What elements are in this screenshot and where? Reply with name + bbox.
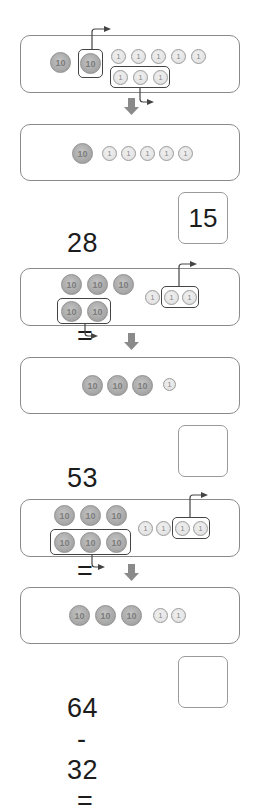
- equals-sign: =: [77, 786, 93, 809]
- minuend: 64: [67, 693, 98, 723]
- answer-box-3[interactable]: [178, 656, 228, 708]
- ten-coin: [121, 605, 142, 626]
- one-coin: [171, 608, 186, 623]
- one-coin: [153, 608, 168, 623]
- ten-coin: [95, 605, 116, 626]
- minus-sign: -: [77, 724, 87, 754]
- equation-3: 64 - 32 =: [35, 662, 98, 809]
- ten-coin: [69, 605, 90, 626]
- subtrahend: 32: [67, 755, 98, 785]
